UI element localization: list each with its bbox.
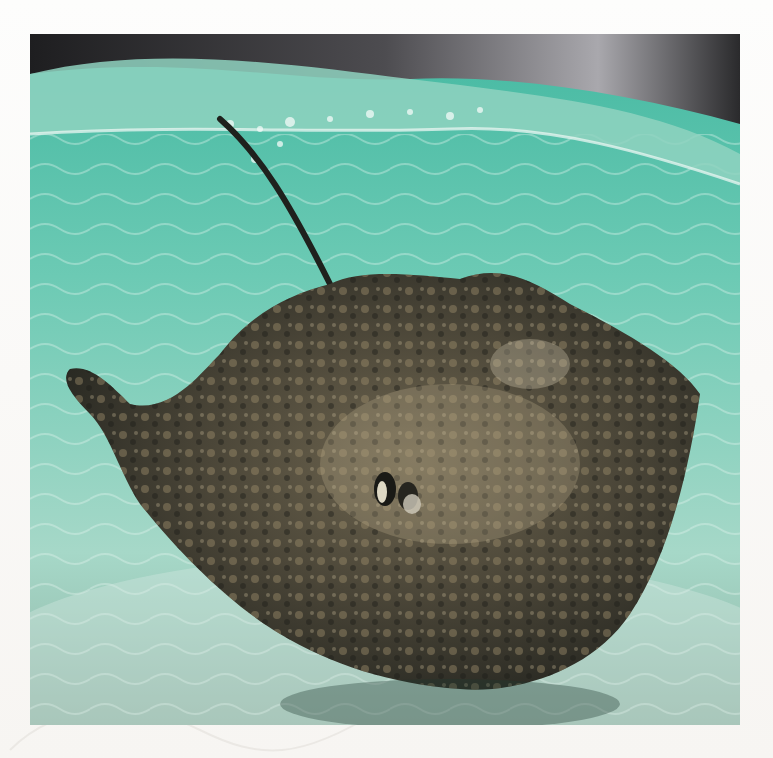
photo-illustration [30, 34, 740, 725]
stingray-photo [30, 34, 740, 725]
